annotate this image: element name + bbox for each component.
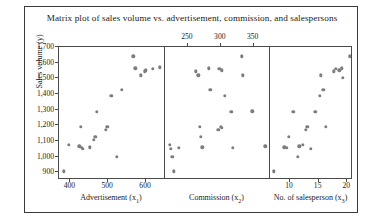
data-point	[285, 146, 288, 149]
y-axis-label: Sales volume (y)	[35, 17, 44, 107]
data-point	[177, 146, 180, 149]
data-point	[169, 147, 172, 150]
data-point	[67, 143, 70, 146]
x-tick-mark	[253, 43, 254, 46]
x-tick-mark	[289, 179, 290, 182]
data-point	[251, 109, 254, 112]
x-tick-label: 350	[247, 32, 258, 41]
data-point	[264, 145, 267, 148]
y-tick-label: 900	[43, 167, 54, 176]
x-axis-label: Advertisement (x1)	[80, 193, 142, 204]
data-point	[324, 125, 327, 128]
data-point	[240, 55, 243, 58]
data-point	[314, 110, 317, 113]
data-point	[216, 128, 219, 131]
x-tick-label: 300	[214, 32, 225, 41]
data-point	[231, 146, 234, 149]
data-point	[94, 135, 97, 138]
data-point	[341, 76, 344, 79]
data-point	[104, 128, 107, 131]
x-tick-mark	[187, 43, 188, 46]
data-point	[220, 126, 223, 129]
data-point	[223, 94, 226, 97]
data-point	[201, 145, 204, 148]
data-point	[241, 73, 244, 76]
x-tick-label: 15	[314, 181, 322, 190]
data-point	[322, 88, 325, 91]
x-tick-mark	[318, 179, 319, 182]
data-point	[318, 94, 321, 97]
data-point	[272, 170, 275, 173]
x-tick-mark	[107, 179, 108, 182]
y-tick-label: 1,200	[37, 120, 54, 129]
data-point	[171, 155, 174, 158]
data-point	[348, 55, 351, 58]
data-point	[209, 88, 212, 91]
data-point	[301, 143, 304, 146]
data-point	[88, 145, 91, 148]
x-tick-mark	[220, 43, 221, 46]
scatter-panel-commission	[164, 46, 269, 179]
data-point	[194, 70, 197, 73]
data-point	[309, 147, 312, 150]
data-point	[92, 138, 95, 141]
data-point	[207, 66, 210, 69]
data-point	[151, 67, 154, 70]
data-point	[172, 170, 175, 173]
scatter-panel-salespersons	[269, 46, 352, 179]
data-point	[131, 55, 134, 58]
data-point	[220, 69, 223, 72]
x-axis-label: No. of salesperson (x3)	[274, 193, 348, 204]
matrix-plot: 9001,0001,1001,2001,3001,4001,5001,6001,…	[25, 7, 359, 214]
data-point	[79, 125, 82, 128]
x-tick-mark	[145, 179, 146, 182]
x-tick-label: 400	[64, 181, 75, 190]
data-point	[95, 110, 98, 113]
x-tick-label: 250	[181, 32, 192, 41]
scatter-panel-advertisement	[58, 46, 164, 179]
data-point	[287, 135, 290, 138]
data-point	[296, 155, 299, 158]
figure-frame: Matrix plot of sales volume vs. advertis…	[24, 6, 358, 213]
data-point	[199, 135, 202, 138]
data-point	[134, 66, 137, 69]
data-point	[304, 128, 307, 131]
x-axis-label: Commission (x2)	[189, 193, 244, 204]
data-point	[110, 94, 113, 97]
data-point	[340, 66, 343, 69]
data-point	[62, 170, 65, 173]
data-point	[230, 110, 233, 113]
x-tick-label: 20	[342, 181, 350, 190]
data-point	[120, 88, 123, 91]
data-point	[197, 73, 200, 76]
x-tick-mark	[69, 179, 70, 182]
x-tick-label: 600	[139, 181, 150, 190]
data-point	[115, 155, 118, 158]
data-point	[81, 147, 84, 150]
x-tick-mark	[346, 179, 347, 182]
x-tick-label: 500	[102, 181, 113, 190]
data-point	[106, 125, 109, 128]
data-point	[139, 73, 142, 76]
data-point	[144, 69, 147, 72]
data-point	[198, 125, 201, 128]
data-point	[306, 125, 309, 128]
y-tick-label: 1,000	[37, 151, 54, 160]
y-tick-label: 1,100	[37, 135, 54, 144]
x-tick-label: 10	[285, 181, 293, 190]
data-point	[319, 73, 322, 76]
data-point	[168, 143, 171, 146]
data-point	[158, 66, 161, 69]
data-point	[292, 110, 295, 113]
